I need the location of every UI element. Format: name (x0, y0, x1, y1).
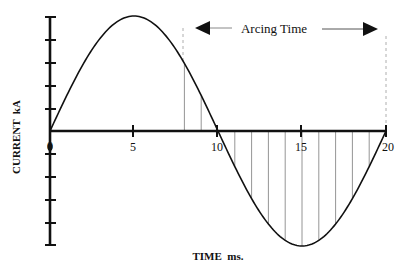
hatched-arcing-region (184, 63, 369, 246)
x-tick-label-10: 10 (211, 140, 223, 154)
arcing-time-diagram: 0 5 10 15 20 Arcing Time TIME ms. CURREN… (0, 0, 410, 271)
y-axis-label: CURRENT kA (10, 100, 22, 174)
arrow-left-head-icon (195, 21, 210, 35)
x-tick-label-0: 0 (47, 139, 53, 153)
x-tick-label-5: 5 (130, 140, 136, 154)
x-axis-label: TIME ms. (192, 250, 243, 262)
arrow-right-head-icon (363, 22, 378, 36)
x-tick-label-15: 15 (295, 140, 307, 154)
x-tick-label-20: 20 (382, 140, 394, 154)
arcing-time-label: Arcing Time (241, 21, 307, 36)
